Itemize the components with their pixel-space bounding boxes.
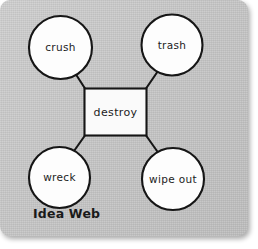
idea-web-diagram: crush trash wreck wipe out destroy [0,0,248,236]
node-crush[interactable]: crush [29,16,92,79]
center-node-destroy[interactable]: destroy [85,89,147,136]
center-node-label: destroy [94,106,138,119]
node-wipe-out[interactable]: wipe out [142,148,204,210]
node-trash[interactable]: trash [142,15,203,76]
node-trash-label: trash [158,39,187,51]
connector-destroy-wreck [74,134,86,151]
node-wreck-label: wreck [43,171,76,183]
node-wreck[interactable]: wreck [29,147,90,208]
diagram-caption: Idea Web [33,206,100,221]
node-crush-label: crush [45,41,76,53]
connector-destroy-wipe-out [145,134,157,151]
node-wipe-out-label: wipe out [149,173,197,185]
connector-destroy-trash [145,71,158,90]
screenshot-stage: crush trash wreck wipe out destroy [0,0,258,249]
idea-web-card: crush trash wreck wipe out destroy [0,0,248,236]
